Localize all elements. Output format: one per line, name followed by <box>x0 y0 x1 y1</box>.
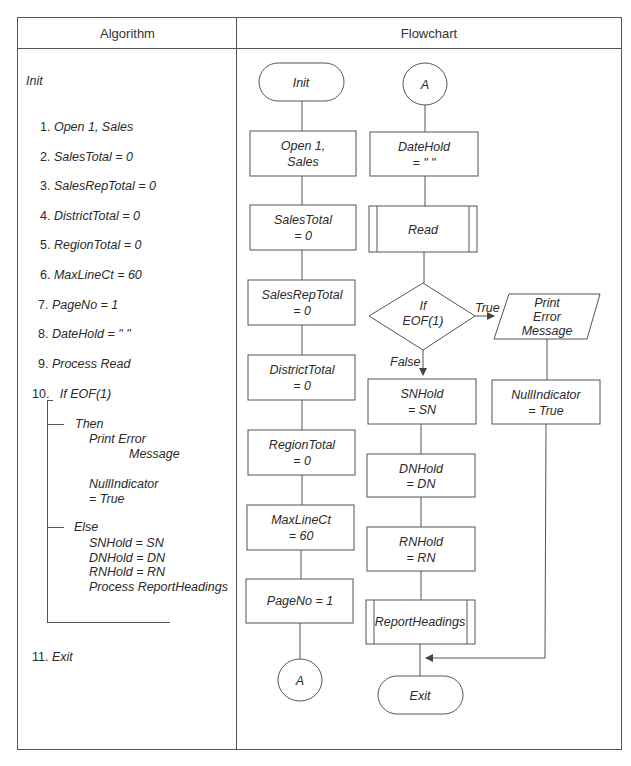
svg-text:= " ": = " " <box>412 156 436 170</box>
salestotal-process-box: SalesTotal = 0 <box>250 205 356 250</box>
svg-text:Print: Print <box>534 296 560 310</box>
svg-text:NullIndicator: NullIndicator <box>511 388 581 402</box>
svg-text:= 0: = 0 <box>293 304 311 318</box>
svg-text:A: A <box>295 674 304 688</box>
salesreptotal-process-box: SalesRepTotal = 0 <box>248 280 355 325</box>
svg-text:SalesTotal: SalesTotal <box>274 213 333 227</box>
svg-text:Init: Init <box>293 76 310 90</box>
svg-text:= 60: = 60 <box>289 529 314 543</box>
svg-text:RegionTotal: RegionTotal <box>269 438 336 452</box>
regiontotal-process-box: RegionTotal = 0 <box>248 430 355 475</box>
exit-terminator: Exit <box>378 676 463 714</box>
false-branch-label: False <box>390 355 421 369</box>
read-predefined-process: Read <box>369 206 477 252</box>
connector-a-top: A <box>403 63 447 105</box>
init-terminator: Init <box>259 63 344 101</box>
rnhold-process-box: RNHold = RN <box>367 527 475 571</box>
svg-text:= 0: = 0 <box>293 454 311 468</box>
svg-text:= 0: = 0 <box>293 379 311 393</box>
districttotal-process-box: DistrictTotal = 0 <box>248 355 355 400</box>
svg-text:Sales: Sales <box>287 155 318 169</box>
true-branch-label: True <box>475 301 500 315</box>
svg-text:Open 1,: Open 1, <box>281 139 325 153</box>
svg-text:EOF(1): EOF(1) <box>403 314 444 328</box>
svg-text:= True: = True <box>528 404 564 418</box>
svg-text:SalesRepTotal: SalesRepTotal <box>262 288 344 302</box>
svg-text:A: A <box>420 78 429 92</box>
svg-text:Read: Read <box>408 223 439 237</box>
svg-text:MaxLineCt: MaxLineCt <box>271 513 331 527</box>
svg-text:Message: Message <box>522 324 573 338</box>
svg-text:RNHold: RNHold <box>399 535 444 549</box>
svg-text:SNHold: SNHold <box>400 387 444 401</box>
pageno-process-box: PageNo = 1 <box>246 579 353 623</box>
flowchart-diagram: Init Open 1, Sales SalesTotal = 0 SalesR… <box>0 0 631 766</box>
svg-text:DistrictTotal: DistrictTotal <box>270 363 336 377</box>
print-error-io-parallelogram: Print Error Message <box>494 294 600 339</box>
svg-text:Error: Error <box>533 310 562 324</box>
connector-a-bottom: A <box>278 659 322 701</box>
svg-text:= DN: = DN <box>407 477 437 491</box>
nullindicator-process-box: NullIndicator = True <box>492 380 600 424</box>
svg-text:= RN: = RN <box>407 551 437 565</box>
svg-text:DNHold: DNHold <box>399 462 444 476</box>
svg-text:= 0: = 0 <box>294 229 312 243</box>
reportheadings-predefined-process: ReportHeadings <box>366 600 475 644</box>
svg-text:PageNo = 1: PageNo = 1 <box>267 594 333 608</box>
svg-text:DateHold: DateHold <box>398 140 451 154</box>
eof-decision-diamond: If EOF(1) <box>369 283 475 350</box>
svg-text:Exit: Exit <box>410 689 431 703</box>
svg-text:= SN: = SN <box>408 403 437 417</box>
datehold-process-box: DateHold = " " <box>370 132 478 176</box>
snhold-process-box: SNHold = SN <box>368 379 476 424</box>
maxlinect-process-box: MaxLineCt = 60 <box>247 505 354 550</box>
dnhold-process-box: DNHold = DN <box>367 454 475 497</box>
open-sales-process-box: Open 1, Sales <box>250 131 356 176</box>
svg-text:ReportHeadings: ReportHeadings <box>375 615 465 629</box>
